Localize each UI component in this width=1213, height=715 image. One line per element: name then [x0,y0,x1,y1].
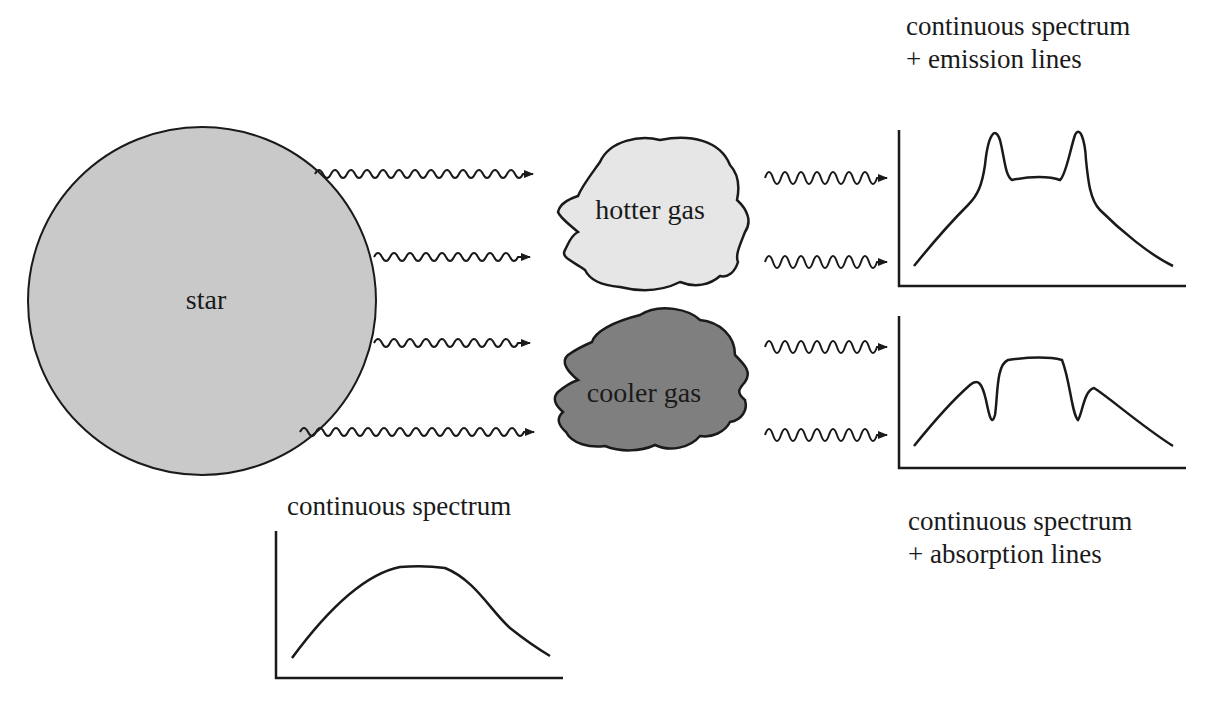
star-label: star [186,284,227,315]
emission-axes [899,130,1186,286]
photon-arrow-2 [374,253,530,261]
continuous-curve [292,566,550,658]
absorption-title-line1: continuous spectrum [908,505,1132,538]
photon-arrow-7 [765,341,887,353]
continuous-title: continuous spectrum [287,490,511,523]
spectra-diagram: star hotter gas cooler gas [0,0,1213,715]
absorption-axes [899,316,1186,468]
photon-arrow-5 [765,172,887,184]
emission-title-line1: continuous spectrum [906,10,1130,43]
photon-arrow-6 [765,256,887,268]
photon-arrow-1 [315,170,533,178]
absorption-title: continuous spectrum + absorption lines [908,505,1132,571]
emission-title-line2: + emission lines [906,43,1130,76]
absorption-spectrum-graph [899,316,1186,468]
photon-arrow-8 [765,429,887,441]
absorption-curve [914,358,1173,446]
continuous-spectrum-graph [276,531,563,678]
emission-curve [914,132,1173,266]
photon-arrows-gas [765,172,887,441]
emission-title: continuous spectrum + emission lines [906,10,1130,76]
hotter-gas-label: hotter gas [595,194,705,225]
continuous-axes [276,531,563,678]
emission-spectrum-graph [899,130,1186,286]
absorption-title-line2: + absorption lines [908,538,1132,571]
photon-arrow-3 [374,339,530,347]
cooler-gas-label: cooler gas [587,377,701,408]
photon-arrow-4 [300,428,534,436]
